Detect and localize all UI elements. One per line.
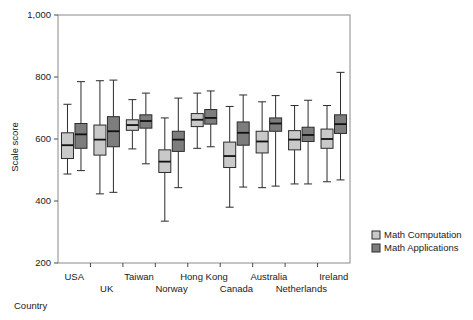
x-category-label: Ireland [319, 271, 348, 282]
y-tick-label: 800 [35, 71, 51, 82]
x-category-label: Norway [155, 283, 187, 294]
legend-label-2: Math Applications [384, 242, 459, 253]
y-tick-label: 400 [35, 195, 51, 206]
x-category-label: Hong Kong [180, 271, 228, 282]
box-australia-applications [270, 118, 282, 131]
x-category-label: Netherlands [276, 283, 327, 294]
x-category-label: UK [100, 283, 114, 294]
x-category-label: Taiwan [124, 271, 154, 282]
x-axis-title: Country [14, 300, 48, 311]
x-category-label: USA [64, 271, 84, 282]
legend-label-1: Math Computation [384, 229, 462, 240]
box-canada-computation [224, 142, 236, 167]
x-category-label: Australia [250, 271, 288, 282]
y-tick-label: 600 [35, 133, 51, 144]
box-plot-figure: 2004006008001,000Scale scoreUSAUKTaiwanN… [0, 0, 473, 320]
y-axis-title: Scale score [9, 122, 20, 172]
box-usa-applications [75, 124, 87, 149]
legend-swatch-1 [372, 231, 380, 239]
x-category-label: Canada [220, 283, 254, 294]
box-norway-applications [172, 131, 184, 151]
box-hong-kong-applications [205, 110, 217, 125]
y-tick-label: 200 [35, 257, 51, 268]
scale-score-box-plot: 2004006008001,000Scale scoreUSAUKTaiwanN… [0, 0, 473, 320]
legend-swatch-2 [372, 244, 380, 252]
y-tick-label: 1,000 [27, 9, 51, 20]
